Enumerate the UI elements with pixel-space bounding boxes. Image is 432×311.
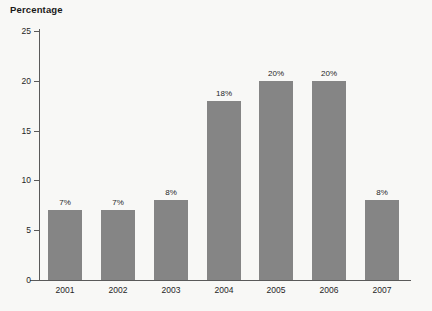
bar-chart: Percentage 0510152025 7%7%8%18%20%20%8% … [0, 0, 432, 311]
x-axis-tick-label: 2001 [48, 285, 82, 295]
y-axis-tick [34, 280, 39, 281]
x-axis-tick-label: 2006 [312, 285, 346, 295]
x-axis: 2001200220032004200520062007 [0, 0, 432, 311]
x-axis-tick-label: 2004 [207, 285, 241, 295]
x-axis-tick-label: 2002 [101, 285, 135, 295]
x-axis-tick-label: 2005 [259, 285, 293, 295]
y-axis-tick [34, 81, 39, 82]
x-axis-tick-label: 2007 [365, 285, 399, 295]
y-axis-tick [34, 180, 39, 181]
y-axis-tick [34, 31, 39, 32]
x-axis-tick-label: 2003 [154, 285, 188, 295]
y-axis-tick [34, 230, 39, 231]
y-axis-tick [34, 131, 39, 132]
